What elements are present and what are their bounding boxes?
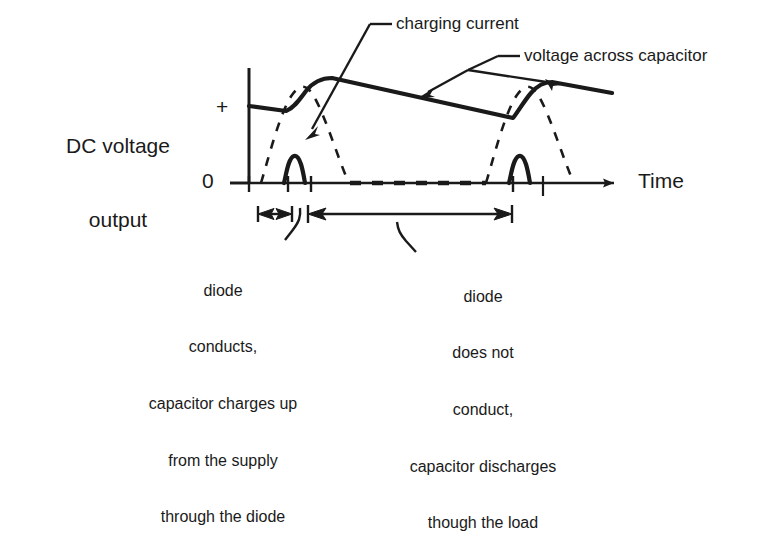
note-hook-non-conducting — [397, 222, 416, 252]
y-axis-title-line1: DC voltage — [28, 134, 208, 159]
note-diode-conducts: diode conducts, capacitor charges up fro… — [98, 244, 348, 535]
voltage-arrowhead-left — [418, 88, 435, 98]
sine-hump-1 — [261, 87, 349, 183]
note-non-conducting-line-1: diode — [358, 288, 608, 307]
note-diode-does-not-conduct: diode does not conduct, capacitor discha… — [358, 250, 608, 535]
callout-voltage-across-capacitor: voltage across capacitor — [524, 46, 707, 66]
axes-group — [230, 68, 614, 196]
note-conducting-line-1: diode — [98, 282, 348, 301]
voltage-leader-branch-left — [428, 70, 468, 92]
note-conducting-line-2: conducts, — [98, 338, 348, 357]
callout-charging-current: charging current — [396, 14, 519, 34]
sine-hump-2 — [486, 87, 574, 183]
note-non-conducting-line-3: conduct, — [358, 401, 608, 420]
note-non-conducting-line-5: though the load — [358, 514, 608, 533]
voltage-leader-line — [468, 56, 498, 70]
charging-current-leader-line — [312, 24, 370, 129]
note-non-conducting-line-2: does not — [358, 344, 608, 363]
note-conducting-line-3: capacitor charges up — [98, 395, 348, 414]
x-axis-label: Time — [638, 169, 684, 194]
voltage-leader-branch-right — [468, 70, 553, 83]
y-axis-title: DC voltage output — [28, 84, 208, 257]
note-conducting-line-5: through the diode — [98, 508, 348, 527]
note-non-conducting-line-4: capacitor discharges — [358, 458, 608, 477]
y-tick-label-zero: 0 — [202, 169, 214, 194]
y-tick-label-plus: + — [216, 95, 228, 120]
y-axis-title-line2: output — [28, 208, 208, 233]
note-conducting-line-4: from the supply — [98, 452, 348, 471]
